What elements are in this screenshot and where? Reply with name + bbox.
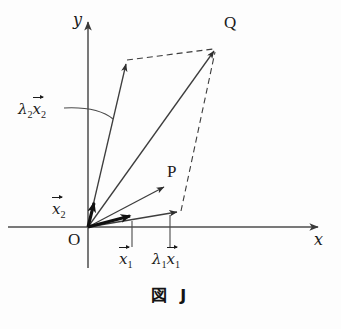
- vector-label-lambda1-x1: λ1x1: [152, 250, 180, 270]
- dashed-edge-lambda2x2-to-Q: [127, 49, 213, 60]
- x2-subscript: 2: [60, 209, 65, 220]
- x2-symbol: x: [52, 200, 60, 217]
- origin-label: O: [68, 231, 80, 248]
- figure-container: y x O P Q x1 x2 λ1x1 λ2x2 図 J: [0, 0, 341, 329]
- vector-label-x1: x1: [119, 250, 133, 270]
- lambda2x2-x-subscript: 2: [41, 109, 46, 120]
- lambda2x2-x-symbol: x: [33, 100, 41, 117]
- y-axis-label: y: [73, 12, 82, 28]
- x1-subscript: 1: [127, 259, 132, 270]
- lambda1-symbol: λ: [152, 250, 162, 268]
- point-label-P: P: [167, 163, 176, 180]
- lambda1x1-x-subscript: 1: [175, 259, 180, 270]
- figure-caption: 図 J: [0, 282, 341, 306]
- vector-label-lambda2-x2: λ2x2: [18, 100, 46, 120]
- lambda1x1-x-symbol: x: [167, 250, 175, 267]
- vector-OQ: [88, 51, 214, 227]
- x-axis-label: x: [314, 232, 323, 248]
- vector-label-x2: x2: [52, 200, 66, 220]
- point-label-Q: Q: [224, 14, 236, 31]
- dashed-edge-lambda1x1-to-Q: [181, 52, 215, 211]
- lambda2-symbol: λ: [18, 100, 28, 118]
- vector-lambda2-x2: [88, 64, 126, 227]
- x1-symbol: x: [119, 250, 127, 267]
